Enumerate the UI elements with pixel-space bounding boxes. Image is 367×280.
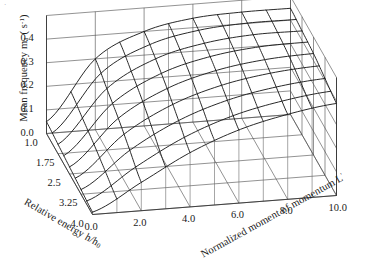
x-tick-label-3: 3.25 xyxy=(59,197,77,208)
x-tick-label-4: 4.0 xyxy=(71,218,84,229)
x-tick-label-2: 2.5 xyxy=(48,177,61,188)
surface-line-constant-x xyxy=(81,78,325,189)
y-tick-label-5: 10.0 xyxy=(329,202,347,213)
surface-line-constant-y xyxy=(242,12,288,114)
surface-line-constant-y xyxy=(169,24,215,141)
floor-gridline-x xyxy=(242,118,288,199)
floor-gridline-y xyxy=(58,135,302,154)
y-tick-label-1: 2.0 xyxy=(133,217,146,228)
grid-lines xyxy=(47,0,337,196)
y-tick-label-4: 8.0 xyxy=(280,205,293,216)
y-tick-label-2: 4.0 xyxy=(182,213,195,224)
surface-line-constant-x xyxy=(58,31,302,144)
surface-line-constant-y xyxy=(266,10,312,108)
y-tick-label-3: 6.0 xyxy=(231,209,244,220)
z-axis-title: Mean frequency m1 ( s-1) xyxy=(18,0,30,138)
z-axis-title-suffix: ) xyxy=(18,14,29,18)
figure-3d-surface-plot: · Mean frequency m1 ( s-1) Relative ener… xyxy=(0,0,367,280)
z-tick-label-2: 0.2 xyxy=(21,79,34,90)
x-tick-label-1: 1.75 xyxy=(36,157,54,168)
floor-gridline-x xyxy=(95,130,141,211)
surface-line-constant-y xyxy=(144,32,190,153)
back-wall-gridline-h xyxy=(47,0,291,16)
floor-gridline-y xyxy=(81,175,325,194)
y-tick-label-0: 0.0 xyxy=(85,221,98,232)
x-tick-label-0: 1.0 xyxy=(25,137,38,148)
z-tick-label-4: 0.4 xyxy=(21,32,34,43)
surface-mesh-lines xyxy=(47,8,337,212)
z-tick-label-1: 0.1 xyxy=(21,103,34,114)
z-axis-title-sup: -1 xyxy=(18,18,26,24)
floor-gridline-x xyxy=(193,122,239,203)
plot-canvas xyxy=(0,0,367,280)
z-tick-label-3: 0.3 xyxy=(21,56,34,67)
